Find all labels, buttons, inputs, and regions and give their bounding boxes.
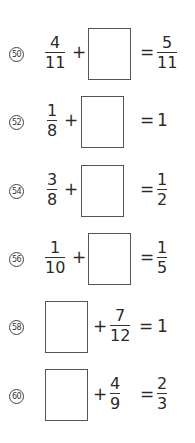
denominator: 9: [110, 395, 120, 412]
numerator: 4: [50, 34, 60, 51]
problem-number: 50: [9, 47, 24, 62]
answer-box[interactable]: [45, 369, 88, 421]
numerator: 1: [157, 239, 167, 256]
answer-box[interactable]: [88, 233, 131, 285]
fraction-addend: 18: [47, 102, 57, 139]
numerator: 4: [110, 375, 120, 392]
denominator: 12: [110, 327, 130, 344]
fraction-result: 23: [157, 375, 167, 412]
fraction-addend: 712: [110, 307, 130, 344]
plus-sign: +: [64, 112, 78, 129]
denominator: 11: [45, 54, 65, 71]
numerator: 1: [50, 239, 60, 256]
plus-sign: +: [64, 181, 78, 198]
answer-box[interactable]: [45, 301, 88, 353]
problem-number: 60: [9, 389, 24, 404]
fraction-result: 511: [157, 34, 177, 71]
fraction-result: 12: [157, 171, 167, 208]
result-value: 1: [157, 318, 168, 335]
equals-sign: =: [140, 386, 154, 403]
plus-sign: +: [93, 318, 107, 335]
equals-sign: =: [140, 112, 154, 129]
answer-box[interactable]: [81, 165, 124, 217]
fraction-addend: 411: [45, 34, 65, 71]
denominator: 8: [47, 122, 57, 139]
denominator: 3: [157, 395, 167, 412]
equals-sign: =: [140, 181, 154, 198]
denominator: 2: [157, 191, 167, 208]
problem-number: 52: [9, 115, 24, 130]
equals-sign: =: [139, 318, 153, 335]
answer-box[interactable]: [88, 28, 131, 80]
denominator: 10: [45, 259, 65, 276]
numerator: 2: [157, 375, 167, 392]
equals-sign: =: [140, 44, 154, 61]
fraction-addend: 110: [45, 239, 65, 276]
plus-sign: +: [93, 386, 107, 403]
fraction-addend: 38: [47, 171, 57, 208]
denominator: 11: [157, 54, 177, 71]
equals-sign: =: [140, 249, 154, 266]
fraction-addend: 49: [110, 375, 120, 412]
result-value: 1: [157, 112, 168, 129]
denominator: 5: [157, 259, 167, 276]
problem-number: 56: [9, 252, 24, 267]
numerator: 5: [162, 34, 172, 51]
problem-number: 58: [9, 320, 24, 335]
numerator: 3: [47, 171, 57, 188]
problem-number: 54: [9, 184, 24, 199]
numerator: 1: [157, 171, 167, 188]
fraction-result: 15: [157, 239, 167, 276]
numerator: 1: [47, 102, 57, 119]
answer-box[interactable]: [81, 96, 124, 148]
denominator: 8: [47, 191, 57, 208]
plus-sign: +: [72, 44, 86, 61]
numerator: 7: [115, 307, 125, 324]
plus-sign: +: [72, 249, 86, 266]
